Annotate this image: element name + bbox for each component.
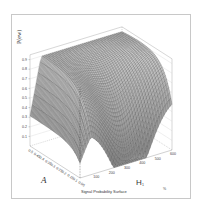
z-tick-label: 0.5 bbox=[22, 96, 27, 100]
z-tick-label: 0.9 bbox=[22, 58, 27, 62]
z-tick-label: 0.3 bbox=[22, 115, 27, 119]
a-tick-label: 0.1 bbox=[72, 177, 78, 183]
h1-tick-label: 300 bbox=[124, 166, 130, 170]
h1-tick-label: 600 bbox=[170, 152, 176, 156]
corner-mark: % bbox=[163, 187, 167, 191]
a-tick-label: 0.4 bbox=[39, 156, 45, 162]
z-tick-label: 0.6 bbox=[22, 87, 27, 91]
a-axis-label: A bbox=[40, 175, 47, 185]
z-tick-label: 0.1 bbox=[22, 135, 27, 139]
h1-tick-label: 100 bbox=[93, 175, 99, 179]
surface-plot: 0.10.20.30.40.50.60.70.80.9 0.50.450.40.… bbox=[0, 0, 204, 210]
a-tick-label: 0.2 bbox=[61, 170, 67, 176]
z-tick-label: 0.8 bbox=[22, 67, 27, 71]
h1-tick-label: 200 bbox=[109, 171, 115, 175]
z-axis-ticks: 0.10.20.30.40.50.60.70.80.9 bbox=[22, 58, 30, 139]
z-tick-label: 0.7 bbox=[22, 77, 27, 81]
h1-tick-label: 400 bbox=[139, 161, 145, 165]
z-tick-label: 0.2 bbox=[22, 125, 27, 129]
surface-mesh bbox=[30, 32, 172, 168]
a-tick-label: 0.3 bbox=[50, 163, 56, 169]
chart-caption: Signal Probability Surface bbox=[81, 189, 128, 194]
a-tick-label: 0.05 bbox=[77, 180, 85, 187]
h1-tick-label: 500 bbox=[155, 157, 161, 161]
a-tick-label: 0.5 bbox=[27, 148, 33, 154]
h1-axis-subscript: 1 bbox=[142, 183, 144, 187]
z-axis-label: P(ew) bbox=[16, 30, 23, 44]
z-tick-label: 0.4 bbox=[22, 106, 27, 110]
